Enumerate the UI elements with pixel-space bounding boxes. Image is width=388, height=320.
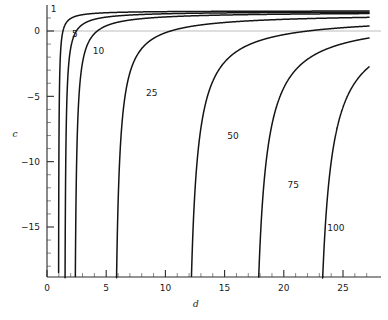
y-tick-label: −10	[21, 157, 40, 167]
curve-label-5: 5	[72, 29, 78, 39]
curve-label-25: 25	[146, 88, 157, 98]
x-tick-label: 0	[44, 283, 50, 293]
contour-family-plot: 0−5−10−15 0510152025 1510255075100 c d	[0, 0, 388, 320]
y-tick-label: 0	[34, 26, 40, 36]
y-axis-title: c	[12, 129, 17, 139]
curve-label-10: 10	[93, 46, 105, 56]
x-tick-label: 10	[160, 283, 172, 293]
curve-label-1: 1	[51, 4, 57, 14]
y-tick-label: −15	[21, 222, 40, 232]
x-tick-label: 15	[219, 283, 230, 293]
y-tick-label: −5	[27, 92, 40, 102]
curve-label-100: 100	[327, 223, 344, 233]
curve-label-50: 50	[227, 131, 239, 141]
x-tick-label: 25	[337, 283, 348, 293]
x-axis-title: d	[193, 299, 199, 309]
x-tick-label: 20	[278, 283, 290, 293]
curve-label-75: 75	[288, 180, 299, 190]
x-tick-label: 5	[103, 283, 109, 293]
